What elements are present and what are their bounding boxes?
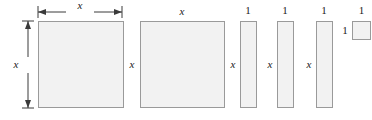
algebra-tiles-figure: x x x x 1 x 1 x 1 x 1 1 bbox=[0, 0, 372, 120]
x-tile-3 bbox=[316, 21, 333, 108]
left-height-dimension-arrow-icon bbox=[21, 15, 35, 115]
unit-tile-width-label: 1 bbox=[352, 5, 371, 16]
left-height-dimension-line bbox=[21, 15, 35, 115]
x-squared-tile-1 bbox=[38, 21, 124, 108]
x-tile-2-width-label: 1 bbox=[275, 5, 295, 16]
x-tile-1-height-label: x bbox=[227, 59, 239, 70]
top-width-dimension-label: x bbox=[70, 0, 90, 11]
x-tile-1-width-label: 1 bbox=[238, 5, 258, 16]
x-squared-tile-2-height-label: x bbox=[126, 59, 138, 70]
unit-tile bbox=[352, 21, 371, 40]
x-tile-3-height-label: x bbox=[303, 59, 315, 70]
x-tile-2-height-label: x bbox=[264, 59, 276, 70]
x-tile-3-width-label: 1 bbox=[314, 5, 334, 16]
x-squared-tile-2 bbox=[140, 21, 225, 108]
x-tile-2 bbox=[277, 21, 294, 108]
left-height-dimension-label: x bbox=[9, 59, 23, 70]
unit-tile-height-label: 1 bbox=[340, 25, 350, 36]
x-tile-1 bbox=[240, 21, 257, 108]
x-squared-tile-2-width-label: x bbox=[172, 6, 192, 17]
